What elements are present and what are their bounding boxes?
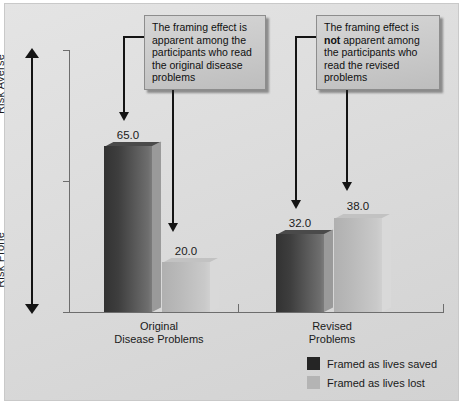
callout-2-connector-down [346,90,348,184]
callout-1-line-4: the original disease [152,59,242,71]
bar-value-label: 65.0 [104,129,152,141]
x-axis-tick-end [443,304,444,313]
callout-revised-problems: The framing effect is not apparent among… [316,15,440,90]
bar-value-label: 32.0 [276,217,324,229]
bar-side-face [382,214,391,312]
callout-2-connector-horizontal [295,36,318,38]
legend-item-lives-saved: Framed as lives saved [307,355,437,372]
callout-1-connector-down [172,90,174,225]
callout-1-arrowhead-down [168,223,178,232]
bar-revised-lives-lost [334,218,382,312]
y-axis-tick-top [63,50,70,51]
callout-2-connector-vertical [295,36,297,202]
bar-front-face [162,262,210,312]
bar-original-lives-lost [162,262,210,312]
legend-item-lives-lost: Framed as lives lost [307,374,437,391]
arrow-shaft [31,56,33,306]
callout-1-line-1: The framing effect is [152,21,247,33]
y-axis-tick-bottom [63,312,70,313]
bar-value-label: 20.0 [162,245,210,257]
callout-2-arrowhead-down [342,182,352,191]
axis-label-risk-averse: Risk Averse [0,54,6,114]
callout-1-connector-vertical [123,36,125,114]
callout-2-emphasis: not [324,34,340,46]
legend-label: Framed as lives lost [327,377,425,389]
bar-side-face [324,230,333,312]
bar-side-face [152,142,161,312]
callout-1-line-2: apparent among the [152,34,246,46]
callout-2-arrowhead-left [291,200,301,209]
callout-2-rest: apparent among [340,34,419,46]
axis-label-risk-prone: Risk Prone [0,232,6,288]
callout-2-prefix: The framing effect is [324,21,419,33]
risk-orientation-arrow [25,48,39,314]
bar-original-lives-saved [104,146,152,312]
legend-swatch-icon [307,376,320,389]
category-label-original: Original Disease Problems [94,320,224,346]
bar-front-face [276,234,324,312]
x-axis-tick-group-divider [238,304,239,313]
callout-1-arrowhead-left [119,112,129,121]
bar-side-face [210,258,219,312]
bar-front-face [334,218,382,312]
category-label-revised: Revised Problems [272,320,392,346]
bar-value-label: 38.0 [334,200,382,212]
callout-original-problems: The framing effect is apparent among the… [144,15,266,90]
x-axis-line [69,312,444,313]
callout-2-line-5: problems [324,71,367,83]
arrow-head-down-icon [25,304,39,314]
callout-1-line-3: participants who read [152,46,252,58]
legend-label: Framed as lives saved [327,358,437,370]
y-axis-tick-middle [63,181,70,182]
callout-1-line-5: problems [152,71,195,83]
callout-2-line-3: the participants who [324,46,417,58]
bar-revised-lives-saved [276,234,324,312]
legend-swatch-icon [307,357,320,370]
callout-2-line-4: read the revised [324,59,399,71]
framing-effect-bar-chart: Risk Averse Risk Prone 65.0 20.0 32.0 38… [0,0,463,408]
legend: Framed as lives saved Framed as lives lo… [307,355,437,393]
bar-front-face [104,146,152,312]
